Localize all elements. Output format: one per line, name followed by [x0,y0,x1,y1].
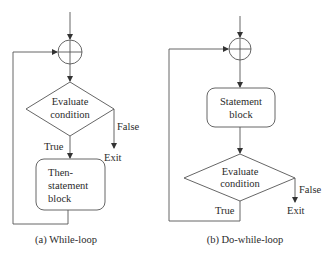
then-block-line3: block [48,192,71,205]
junction-circle [229,38,251,60]
do-while-decision-label-line1: Evaluate [222,166,259,178]
do-while-decision-label-line2: condition [220,178,260,190]
statement-block-line2: block [229,109,252,121]
while-true-label: True [44,141,63,153]
while-loop-caption: (a) While-loop [35,234,97,245]
then-block-line1: Then- [48,166,73,179]
while-false-label: False [117,121,139,133]
then-block-line2: statement [48,179,88,192]
flowchart-canvas [0,0,333,259]
do-while-exit-label: Exit [287,205,305,217]
do-while-loop-caption: (b) Do-while-loop [207,234,284,245]
loop-back-arrow [169,49,240,221]
while-decision-label-line1: Evaluate [52,96,89,108]
while-exit-label: Exit [104,152,122,164]
junction-circle [58,40,82,64]
statement-block-line1: Statement [220,96,262,108]
while-decision-label-line2: condition [50,109,90,121]
do-while-true-label: True [215,205,234,217]
do-while-false-label: False [299,184,321,196]
